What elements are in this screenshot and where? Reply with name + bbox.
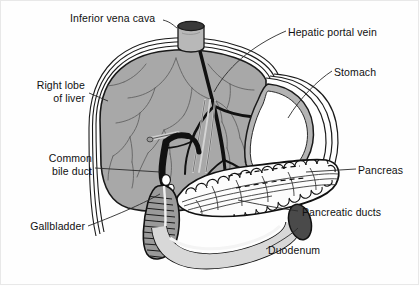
bile-duct-lumen-1	[162, 175, 171, 186]
label-hepatic-portal-vein: Hepatic portal vein	[288, 26, 377, 39]
label-right-lobe-of-liver-line-1: Right lobe	[10, 79, 85, 92]
label-duodenum-line-1: Duodenum	[268, 244, 320, 257]
label-pancreatic-ducts-line-1: Pancreatic ducts	[302, 206, 381, 219]
vena-cava-lumen	[178, 21, 204, 30]
anatomy-figure: Inferior vena cava Hepatic portal vein R…	[0, 0, 420, 286]
label-inferior-vena-cava: Inferior vena cava	[70, 12, 155, 25]
label-stomach: Stomach	[334, 66, 376, 79]
label-pancreas: Pancreas	[358, 164, 403, 177]
leader-inferior-vena-cava	[163, 20, 177, 28]
label-common-bile-duct-line-1: Common	[10, 152, 92, 165]
label-common-bile-duct: Common bile duct	[10, 152, 92, 177]
label-gallbladder: Gallbladder	[10, 220, 85, 233]
label-pancreas-line-1: Pancreas	[358, 164, 403, 177]
anatomy-illustration	[0, 0, 420, 286]
label-duodenum: Duodenum	[268, 244, 320, 257]
label-stomach-line-1: Stomach	[334, 66, 376, 79]
inferior-vena-cava-structure	[178, 21, 204, 52]
label-hepatic-portal-vein-line-1: Hepatic portal vein	[288, 26, 377, 39]
label-gallbladder-line-1: Gallbladder	[10, 220, 85, 233]
label-inferior-vena-cava-line-1: Inferior vena cava	[70, 12, 155, 25]
label-right-lobe-of-liver-line-2: of liver	[10, 92, 85, 105]
label-right-lobe-of-liver: Right lobe of liver	[10, 79, 85, 104]
label-pancreatic-ducts: Pancreatic ducts	[302, 206, 381, 219]
label-common-bile-duct-line-2: bile duct	[10, 165, 92, 178]
